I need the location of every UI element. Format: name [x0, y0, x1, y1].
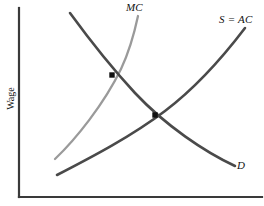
mc-demand-intersection	[109, 72, 114, 77]
curve-label-mc: MC	[126, 1, 143, 13]
plot-area	[0, 0, 264, 206]
curve-label-supply-average-cost: S = AC	[219, 13, 252, 25]
curve-label-demand: D	[237, 159, 245, 171]
economics-diagram: MC S = AC D Wage	[0, 0, 264, 206]
y-axis-label: Wage	[5, 77, 16, 121]
curve-supply-average-cost	[57, 28, 245, 175]
curve-demand	[70, 13, 235, 166]
curves-group	[55, 13, 245, 175]
axes-group	[19, 8, 262, 197]
supply-demand-intersection	[152, 112, 157, 117]
